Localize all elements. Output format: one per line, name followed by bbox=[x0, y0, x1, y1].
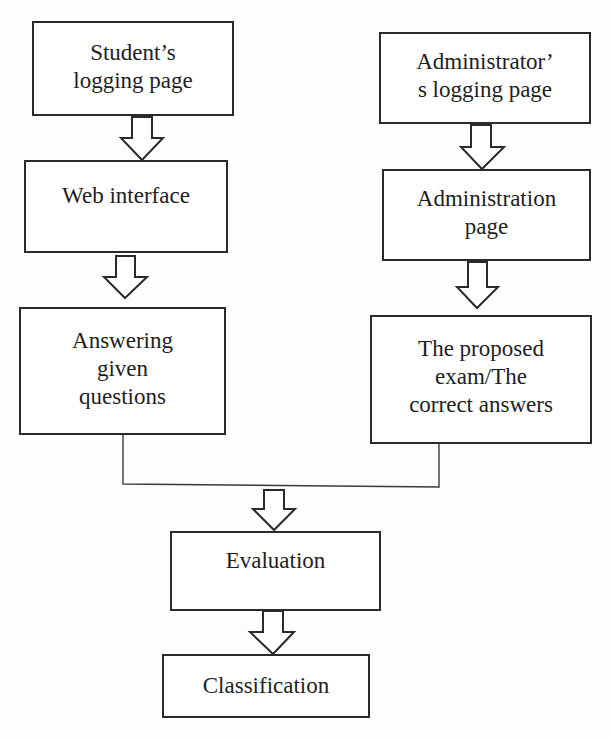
down-arrow-icon bbox=[121, 117, 163, 160]
down-arrow-icon bbox=[461, 125, 504, 169]
down-arrow-icon bbox=[253, 490, 295, 530]
node-label: The proposed exam/The correct answers bbox=[372, 335, 590, 419]
flowchart-canvas: Student’s logging page Web interface Ans… bbox=[0, 0, 612, 740]
node-administration-page: Administration page bbox=[382, 169, 591, 261]
node-label: Web interface bbox=[26, 182, 226, 210]
node-label: Evaluation bbox=[172, 547, 379, 575]
node-label: Administrator’ s logging page bbox=[381, 48, 589, 104]
node-label: Answering given questions bbox=[21, 327, 224, 411]
node-label: Student’s logging page bbox=[34, 39, 232, 95]
node-student-logging-page: Student’s logging page bbox=[32, 21, 234, 116]
node-answering-given-questions: Answering given questions bbox=[19, 307, 226, 435]
down-arrow-icon bbox=[457, 262, 498, 308]
node-label: Classification bbox=[164, 672, 368, 700]
down-arrow-icon bbox=[250, 611, 294, 654]
node-classification: Classification bbox=[162, 654, 370, 718]
node-administrator-logging-page: Administrator’ s logging page bbox=[379, 32, 591, 124]
down-arrow-icon bbox=[104, 256, 147, 298]
node-web-interface: Web interface bbox=[24, 160, 228, 253]
node-proposed-exam-correct-answers: The proposed exam/The correct answers bbox=[370, 315, 592, 444]
node-evaluation: Evaluation bbox=[170, 531, 381, 611]
node-label: Administration page bbox=[384, 185, 589, 241]
